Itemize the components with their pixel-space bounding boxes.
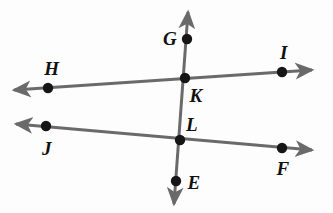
label-f: F [276, 159, 289, 178]
point-i [277, 67, 287, 77]
label-l: L [186, 115, 198, 134]
point-g [182, 34, 192, 44]
label-g: G [163, 29, 177, 48]
label-k: K [189, 86, 202, 105]
point-k [180, 73, 190, 83]
label-h: H [44, 59, 59, 78]
points-group [41, 34, 287, 186]
label-j: J [42, 139, 52, 158]
line-j-f [16, 124, 312, 150]
label-e: E [187, 173, 200, 192]
geometry-diagram: GIHKLJFE [0, 0, 333, 213]
point-f [277, 143, 287, 153]
point-l [175, 135, 185, 145]
point-h [43, 83, 53, 93]
point-e [171, 176, 181, 186]
point-j [41, 121, 51, 131]
label-i: I [280, 43, 288, 62]
